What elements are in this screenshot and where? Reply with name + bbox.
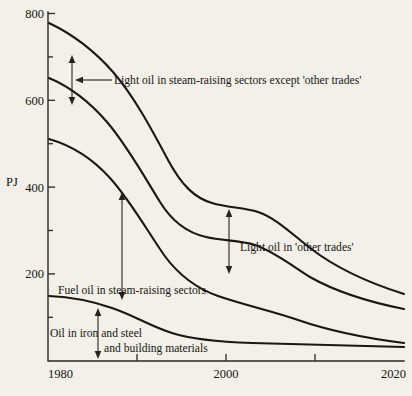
series-group [49,23,404,347]
annotation-4-arrow-head-up [95,308,102,316]
series-line-other-trades [49,78,404,309]
y-axis-label-200: 200 [25,267,44,281]
annotation-4-label-line2: and building materials [104,342,208,355]
tick-labels-group: 800 600 400 200 PJ 1980 2000 2020 [6,7,406,381]
x-axis-label-1980: 1980 [48,367,73,381]
annotation-3-label: Fuel oil in steam-raising sectors [58,284,207,297]
annotation-4-label-line1: Oil in iron and steel [50,327,142,340]
oil-consumption-line-chart: 800 600 400 200 PJ 1980 2000 2020 [0,0,412,396]
annotation-1-label: Light oil in steam-raising sectors excep… [114,74,361,87]
chart-canvas: 800 600 400 200 PJ 1980 2000 2020 [0,0,412,396]
annotation-1-leader-arrow-head [75,77,83,83]
y-axis-title: PJ [6,175,18,189]
y-axis-label-600: 600 [25,94,44,108]
x-axis-label-2000: 2000 [214,367,239,381]
axis-lines [48,12,404,361]
axes-group [48,12,404,361]
y-axis-label-400: 400 [25,181,44,195]
x-axis-label-2020: 2020 [381,367,406,381]
annotation-light-oil-steam-raising: Light oil in steam-raising sectors excep… [69,55,362,105]
annotation-2-arrow-head-down [226,266,233,274]
annotation-4-arrow-head-down [95,351,102,359]
annotation-2-label: Light oil in 'other trades' [240,241,354,254]
annotation-1-arrow-head-up [69,55,76,63]
annotation-2-arrow-head-up [226,209,233,217]
y-axis-label-800: 800 [25,7,44,21]
annotation-1-arrow-head-down [69,97,76,105]
